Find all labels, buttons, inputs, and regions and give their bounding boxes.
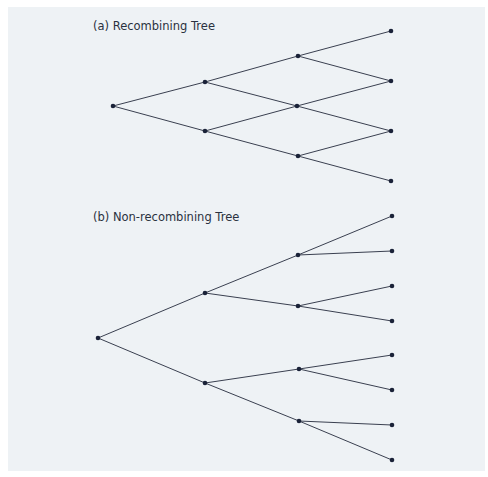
tree-edge — [298, 156, 391, 181]
tree-node — [297, 367, 302, 372]
tree-node — [203, 381, 208, 386]
tree-node — [390, 319, 395, 324]
tree-edge — [298, 31, 391, 56]
tree-edge — [205, 369, 299, 383]
tree-edge — [297, 106, 391, 131]
recombining-tree: (a) Recombining Tree — [93, 19, 393, 183]
tree-edge — [297, 81, 391, 106]
tree-edge — [113, 106, 205, 131]
tree-node — [295, 104, 300, 109]
tree-node — [296, 154, 301, 159]
tree-node — [203, 80, 208, 85]
tree-edge — [298, 216, 392, 255]
tree-edge — [113, 82, 205, 106]
recombining-tree-edges — [113, 31, 391, 181]
non-recombining-tree-title: (b) Non-recombining Tree — [93, 210, 239, 224]
tree-edge — [298, 56, 391, 81]
tree-edge — [98, 293, 205, 338]
tree-edge — [205, 56, 298, 82]
tree-node — [203, 291, 208, 296]
tree-node — [296, 54, 301, 59]
tree-node — [389, 179, 394, 184]
tree-node — [389, 29, 394, 34]
tree-edge — [298, 286, 392, 306]
tree-node — [390, 284, 395, 289]
tree-edge — [299, 421, 392, 425]
tree-node — [111, 104, 116, 109]
tree-edge — [298, 131, 391, 156]
non-recombining-tree: (b) Non-recombining Tree — [93, 210, 394, 462]
tree-diagrams: (a) Recombining Tree (b) Non-recombining… — [0, 0, 488, 477]
tree-node — [203, 129, 208, 134]
tree-edge — [205, 131, 298, 156]
tree-node — [390, 214, 395, 219]
tree-edge — [205, 106, 297, 131]
tree-node — [390, 353, 395, 358]
tree-node — [390, 458, 395, 463]
tree-edge — [299, 369, 392, 390]
tree-edge — [205, 383, 299, 421]
non-recombining-tree-nodes — [96, 214, 395, 463]
tree-node — [390, 249, 395, 254]
tree-node — [389, 129, 394, 134]
recombining-tree-title: (a) Recombining Tree — [93, 19, 215, 33]
tree-edge — [205, 82, 297, 106]
tree-node — [297, 419, 302, 424]
tree-edge — [298, 251, 392, 255]
tree-node — [390, 388, 395, 393]
tree-edge — [299, 355, 392, 369]
tree-edge — [298, 306, 392, 321]
tree-node — [296, 304, 301, 309]
tree-node — [390, 423, 395, 428]
tree-edge — [98, 338, 205, 383]
non-recombining-tree-edges — [98, 216, 392, 460]
tree-node — [389, 79, 394, 84]
recombining-tree-nodes — [111, 29, 394, 184]
tree-edge — [205, 293, 298, 306]
tree-node — [296, 253, 301, 258]
tree-edge — [299, 421, 392, 460]
tree-node — [96, 336, 101, 341]
tree-edge — [205, 255, 298, 293]
